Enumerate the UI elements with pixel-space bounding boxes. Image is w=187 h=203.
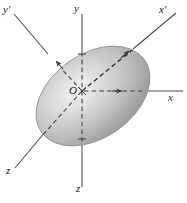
- ellipsoid-axes-diagram: [0, 0, 187, 203]
- axis-label-y-prime: y': [3, 4, 10, 15]
- axis-label-z-prime: z': [76, 183, 83, 194]
- axis-label-x: x: [168, 92, 173, 103]
- ellipsoid-body: [17, 25, 168, 166]
- figure-container: y x z' x' y' z O: [0, 0, 187, 203]
- axis-line-y-prime: [14, 14, 48, 54]
- axis-label-z: z: [6, 165, 10, 176]
- axis-label-x-prime: x': [159, 4, 166, 15]
- arrow-y-prime-axis: [56, 61, 63, 69]
- axis-line-x-prime: [133, 13, 176, 49]
- origin-label: O: [69, 85, 77, 96]
- axis-label-y: y: [74, 3, 79, 14]
- axis-line-z: [15, 131, 46, 168]
